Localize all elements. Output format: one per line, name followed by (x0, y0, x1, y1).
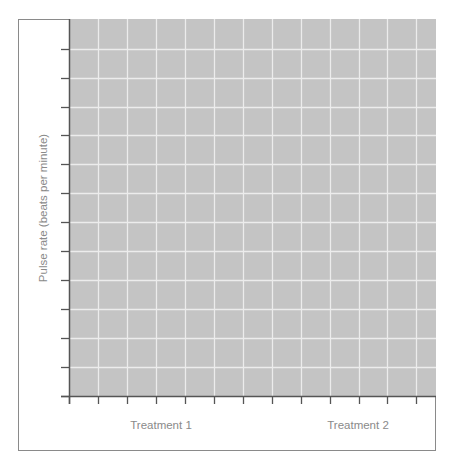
plot-area (69, 19, 436, 396)
y-axis-label: Pulse rate (beats per minute) (37, 134, 49, 282)
x-category-label-treatment-1: Treatment 1 (130, 419, 192, 431)
chart-plot (0, 0, 453, 469)
x-category-label-treatment-2: Treatment 2 (327, 419, 389, 431)
